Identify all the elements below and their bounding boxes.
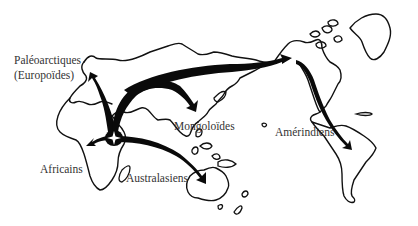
arctic-archipelago-1	[310, 31, 320, 37]
label-paleoarctiques-line1: Paléoarctiques	[14, 53, 81, 68]
label-paleoarctiques: Paléoarctiques (Europoïdes)	[14, 53, 81, 83]
north-america-west-coastline	[298, 62, 320, 112]
label-australasiens: Australasiens	[126, 171, 188, 186]
indonesia-island-2	[192, 147, 198, 154]
new-guinea-outline	[218, 160, 236, 167]
label-paleoarctiques-line2: (Europoïdes)	[14, 68, 81, 83]
new-zealand-north-outline	[242, 191, 248, 197]
tasmania-outline	[218, 205, 223, 210]
philippines-outline	[212, 154, 220, 159]
label-africains: Africains	[40, 162, 83, 177]
hawaii-outline	[262, 123, 267, 127]
greenland-coastline	[350, 14, 391, 60]
arctic-archipelago-5	[328, 20, 338, 26]
label-amerindiens: Amérindiens	[275, 125, 334, 140]
new-zealand-south-outline	[234, 206, 242, 214]
eurasia-coastline	[84, 43, 274, 63]
route-to-bering	[124, 54, 292, 96]
arctic-archipelago-4	[334, 36, 342, 42]
label-mongoloides: Mongoloïdes	[174, 119, 235, 134]
australia-coastline	[187, 167, 229, 201]
indonesia-island-1	[200, 143, 212, 149]
world-migration-map	[0, 0, 418, 226]
arctic-archipelago-2	[322, 26, 332, 33]
caribbean-island	[356, 113, 372, 116]
